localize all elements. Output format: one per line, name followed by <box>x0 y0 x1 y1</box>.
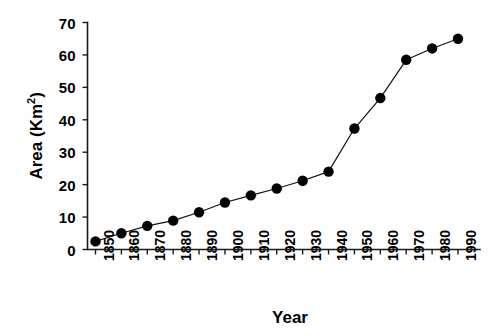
data-point <box>272 183 282 193</box>
data-point <box>116 228 126 238</box>
data-point <box>375 93 385 103</box>
data-series-line <box>96 39 458 242</box>
axis-spine <box>88 23 481 250</box>
data-point <box>220 197 230 207</box>
data-point <box>453 34 463 44</box>
data-point <box>401 55 411 65</box>
data-series-markers <box>90 34 463 247</box>
data-point <box>323 166 333 176</box>
chart-figure: Area (Km2) Year 010203040506070 18501860… <box>0 0 493 336</box>
data-point <box>427 43 437 53</box>
data-point <box>90 236 100 246</box>
data-point <box>297 176 307 186</box>
data-point <box>168 215 178 225</box>
data-point <box>246 190 256 200</box>
data-point <box>142 221 152 231</box>
data-point <box>349 123 359 133</box>
data-point <box>194 207 204 217</box>
plot-area <box>0 0 493 336</box>
